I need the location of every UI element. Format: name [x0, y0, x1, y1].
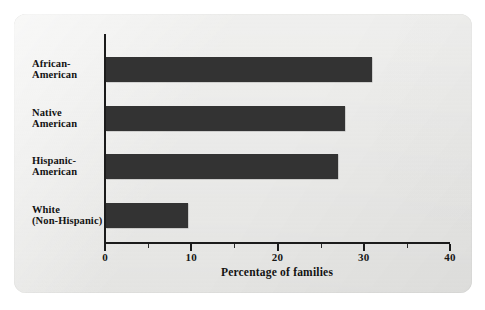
category-label-1: NativeAmerican: [32, 107, 102, 130]
plot-area: 010203040 African-AmericanNativeAmerican…: [0, 0, 485, 310]
x-tick-label-20: 20: [263, 251, 293, 263]
category-label-0: African-American: [32, 58, 102, 81]
bar-1: [106, 106, 345, 131]
category-label-3: White(Non-Hispanic): [32, 204, 102, 227]
x-tick-10: [190, 244, 192, 251]
x-minor-tick-35: [407, 244, 408, 248]
category-label-line: (Non-Hispanic): [32, 215, 102, 227]
category-label-line: American: [32, 118, 102, 130]
x-tick-0: [104, 244, 106, 251]
category-label-line: African-: [32, 58, 102, 70]
category-label-line: Hispanic-: [32, 155, 102, 167]
x-minor-tick-5: [148, 244, 149, 248]
x-tick-label-10: 10: [176, 251, 206, 263]
category-label-line: Native: [32, 107, 102, 119]
bar-2: [106, 154, 338, 179]
bar-0: [106, 57, 372, 82]
category-label-2: Hispanic-American: [32, 155, 102, 178]
category-label-line: American: [32, 69, 102, 81]
category-label-line: American: [32, 166, 102, 178]
x-minor-tick-15: [234, 244, 235, 248]
x-tick-30: [363, 244, 365, 251]
x-tick-label-0: 0: [90, 251, 120, 263]
x-axis-title: Percentage of families: [104, 266, 450, 278]
x-tick-20: [277, 244, 279, 251]
x-minor-tick-25: [321, 244, 322, 248]
category-label-line: White: [32, 204, 102, 216]
x-tick-40: [449, 244, 451, 251]
bar-3: [106, 203, 188, 228]
x-tick-label-30: 30: [349, 251, 379, 263]
chart-screenshot: 010203040 African-AmericanNativeAmerican…: [0, 0, 485, 310]
x-tick-label-40: 40: [435, 251, 465, 263]
